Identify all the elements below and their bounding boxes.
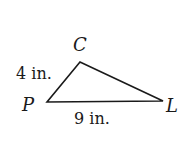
triangle-diagram: C P L 4 in. 9 in. bbox=[0, 0, 185, 144]
side-pl-length: 9 in. bbox=[74, 111, 110, 127]
vertex-label-p: P bbox=[22, 96, 34, 114]
side-pc-length: 4 in. bbox=[16, 66, 52, 82]
vertex-label-c: C bbox=[73, 36, 87, 54]
triangle-pcl bbox=[47, 62, 163, 102]
vertex-label-l: L bbox=[166, 97, 178, 115]
